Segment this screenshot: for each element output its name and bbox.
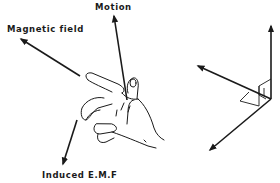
motion-arrow	[114, 16, 127, 100]
motion-label: Motion	[95, 3, 132, 12]
left-axis-arrow	[198, 66, 271, 99]
magnetic-field-label: Magnetic field	[7, 25, 84, 34]
fleming-right-hand-rule-diagram: Motion Magnetic field Induced E.M.F	[0, 0, 280, 183]
hand-illustration	[81, 73, 164, 148]
induced-emf-arrow	[63, 120, 77, 164]
orthogonal-axes	[198, 26, 271, 150]
magnetic-field-arrow	[21, 39, 80, 76]
down-left-axis-arrow	[210, 99, 271, 150]
hand-arrows	[21, 16, 127, 164]
induced-emf-label: Induced E.M.F	[42, 171, 118, 180]
